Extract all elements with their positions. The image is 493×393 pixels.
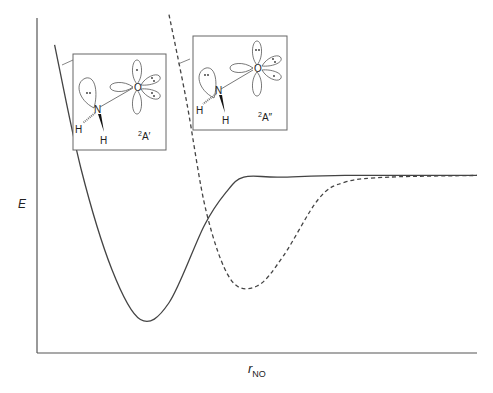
atom-o: O <box>254 63 262 74</box>
inset-box <box>193 36 287 130</box>
inset-box <box>73 54 166 150</box>
inset-leader-line <box>62 60 73 65</box>
atom-h2: H <box>100 135 107 146</box>
atom-h1: H <box>75 124 82 135</box>
inset-2A-double-prime: N H H O 2A″ <box>178 36 287 130</box>
y-axis-label: E <box>18 197 27 211</box>
x-axis-label: rNO <box>248 361 266 379</box>
atom-h2: H <box>222 115 229 126</box>
inset-leader-line <box>178 59 190 64</box>
atom-h1: H <box>196 105 203 116</box>
inset-2A-prime: N H H O 2A′ <box>62 54 166 150</box>
potential-energy-diagram: E rNO N H H O 2A′ N <box>0 0 493 393</box>
